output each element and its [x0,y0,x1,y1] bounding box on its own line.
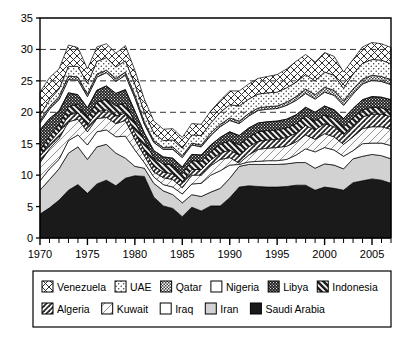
legend-swatch-saudi-arabia [250,303,261,314]
chart-legend: VenezuelaUAEQatarNigeriaLibyaIndonesiaAl… [33,271,391,327]
y-tick-label-5: 5 [27,201,33,213]
legend-item-iran[interactable]: Iran [205,303,238,315]
legend-item-venezuela[interactable]: Venezuela [42,281,106,293]
legend-label-iran: Iran [220,303,238,315]
legend-swatch-kuwait [102,303,113,314]
stacked-area-chart: 05101520253035 1970197519801985199019952… [0,0,403,344]
legend-item-saudi-arabia[interactable]: Saudi Arabia [250,303,325,315]
legend-swatch-uae [115,281,126,292]
y-tick-label-35: 35 [21,12,33,24]
legend-item-algeria[interactable]: Algeria [42,303,90,315]
y-tick-label-0: 0 [27,232,33,244]
legend-item-iraq[interactable]: Iraq [160,303,193,315]
legend-label-qatar: Qatar [176,281,203,293]
x-tick-label-2000: 2000 [312,248,336,260]
legend-swatch-indonesia [317,281,328,292]
legend-swatch-venezuela [42,281,53,292]
chart-root: 05101520253035 1970197519801985199019952… [0,0,403,344]
legend-item-kuwait[interactable]: Kuwait [102,303,149,315]
y-tick-label-10: 10 [21,169,33,181]
legend-label-libya: Libya [283,281,308,293]
legend-swatch-libya [268,281,279,292]
legend-swatch-qatar [161,281,172,292]
legend-item-indonesia[interactable]: Indonesia [317,281,378,293]
legend-label-iraq: Iraq [175,303,193,315]
y-tick-label-25: 25 [21,75,33,87]
x-tick-label-2005: 2005 [360,248,384,260]
legend-item-uae[interactable]: UAE [115,281,152,293]
x-tick-label-1990: 1990 [217,248,241,260]
legend-label-algeria: Algeria [57,303,90,315]
legend-label-venezuela: Venezuela [57,281,106,293]
x-tick-label-1995: 1995 [265,248,289,260]
legend-swatch-algeria [42,303,53,314]
legend-swatch-iraq [160,303,171,314]
y-tick-label-20: 20 [21,106,33,118]
legend-item-qatar[interactable]: Qatar [161,281,203,293]
legend-swatch-iran [205,303,216,314]
legend-label-saudi-arabia: Saudi Arabia [265,303,325,315]
y-tick-label-15: 15 [21,138,33,150]
x-axis: 19701975198019851990199520002005 [28,238,391,260]
legend-item-libya[interactable]: Libya [268,281,308,293]
legend-label-kuwait: Kuwait [117,303,149,315]
y-axis: 05101520253035 [21,12,40,244]
legend-label-indonesia: Indonesia [332,281,378,293]
y-tick-label-30: 30 [21,43,33,55]
legend-label-nigeria: Nigeria [226,281,259,293]
x-tick-label-1970: 1970 [28,248,52,260]
x-tick-label-1980: 1980 [123,248,147,260]
x-tick-label-1975: 1975 [75,248,99,260]
legend-box [33,271,391,327]
x-tick-label-1985: 1985 [170,248,194,260]
legend-label-uae: UAE [130,281,152,293]
